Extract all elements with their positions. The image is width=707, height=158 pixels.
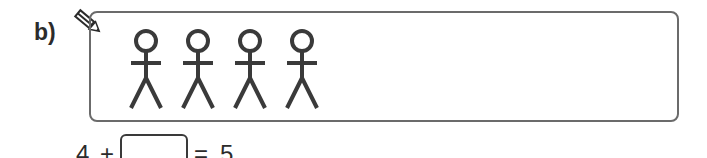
stick-figures-group [0, 0, 707, 158]
result-value: 5 [220, 140, 233, 158]
left-operand: 4 [76, 140, 89, 158]
answer-input-box[interactable] [120, 134, 188, 158]
stick-figure-4 [287, 31, 317, 108]
stick-figure-3 [235, 31, 265, 108]
stick-figure-2 [183, 31, 213, 108]
stick-figure-1 [131, 31, 161, 108]
equals-sign: = [194, 140, 208, 158]
plus-operator: + [100, 140, 114, 158]
